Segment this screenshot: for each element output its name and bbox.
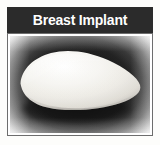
breast-implant-figure: Breast Implant [0, 0, 160, 145]
implant-object [10, 36, 150, 133]
implant-shape-icon [10, 36, 150, 133]
implant-photo [10, 36, 150, 133]
figure-title-bar: Breast Implant [7, 7, 153, 33]
photo-frame [7, 33, 153, 136]
figure-title: Breast Implant [33, 13, 127, 27]
